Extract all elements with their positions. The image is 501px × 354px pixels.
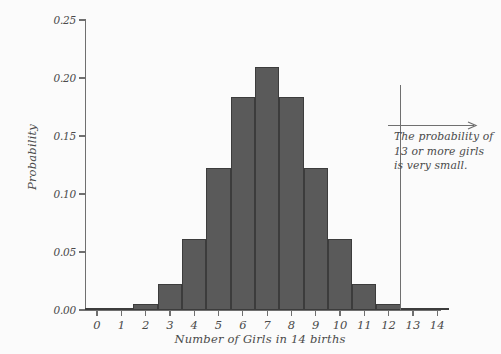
x-tick (364, 310, 365, 316)
y-tick-label-wrap: 0.05 (36, 246, 76, 258)
y-tick (79, 251, 86, 252)
x-tick (388, 310, 389, 316)
x-tick (412, 310, 413, 316)
x-tick (242, 310, 243, 316)
histogram-bar (133, 304, 157, 310)
histogram-bar (352, 284, 376, 310)
annotation-arrow-icon (388, 121, 482, 130)
histogram-bar (182, 239, 206, 310)
y-tick (79, 193, 86, 194)
annotation-line-3: is very small. (394, 159, 501, 174)
annotation-text: The probability of 13 or more girls is v… (394, 130, 501, 174)
annotation-line-2: 13 or more girls (394, 145, 501, 160)
x-tick (169, 310, 170, 316)
cutoff-vline (400, 85, 401, 311)
x-tick-label: 14 (426, 318, 448, 332)
x-tick-label: 0 (86, 318, 108, 332)
y-tick-label: 0.10 (40, 188, 76, 200)
histogram-bar (158, 284, 182, 310)
y-tick-label: 0.25 (40, 14, 76, 26)
x-tick (315, 310, 316, 316)
x-tick-label: 10 (329, 318, 351, 332)
y-axis-line (85, 20, 86, 311)
y-tick (79, 19, 86, 20)
x-tick (194, 310, 195, 316)
x-tick-label: 1 (110, 318, 132, 332)
chart-canvas: Probability Number of Girls in 14 births… (0, 0, 501, 354)
x-tick (437, 310, 438, 316)
x-tick-label: 5 (208, 318, 230, 332)
y-tick-label-wrap: 0.25 (36, 14, 76, 26)
x-tick-label: 13 (402, 318, 424, 332)
x-tick-label: 11 (353, 318, 375, 332)
x-tick-label: 7 (256, 318, 278, 332)
y-tick (79, 77, 86, 78)
y-tick-label: 0.05 (40, 246, 76, 258)
histogram-bar (304, 168, 328, 310)
x-tick-label: 3 (159, 318, 181, 332)
histogram-bar (206, 168, 230, 310)
x-tick-label: 12 (378, 318, 400, 332)
y-tick-label: 0.20 (40, 72, 76, 84)
x-axis-title: Number of Girls in 14 births (110, 332, 410, 346)
histogram-bar (231, 97, 255, 310)
y-tick (79, 135, 86, 136)
y-tick-label: 0.15 (40, 130, 76, 142)
x-tick (218, 310, 219, 316)
histogram-bar (279, 97, 303, 310)
x-tick (121, 310, 122, 316)
x-tick (145, 310, 146, 316)
x-tick (339, 310, 340, 316)
y-tick-label-wrap: 0.10 (36, 188, 76, 200)
x-tick-label: 4 (183, 318, 205, 332)
x-tick (291, 310, 292, 316)
y-tick-label-wrap: 0.15 (36, 130, 76, 142)
x-tick-label: 9 (305, 318, 327, 332)
x-tick (267, 310, 268, 316)
x-tick-label: 6 (232, 318, 254, 332)
y-tick-label-wrap: 0.00 (36, 304, 76, 316)
x-tick (96, 310, 97, 316)
x-tick-label: 8 (280, 318, 302, 332)
histogram-bar (255, 67, 279, 310)
histogram-bar (376, 304, 400, 310)
y-tick-label: 0.00 (40, 304, 76, 316)
y-tick-label-wrap: 0.20 (36, 72, 76, 84)
histogram-bar (328, 239, 352, 310)
annotation-line-1: The probability of (394, 130, 501, 145)
x-tick-label: 2 (135, 318, 157, 332)
